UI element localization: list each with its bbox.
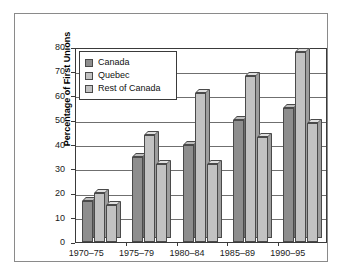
bar-front-face xyxy=(106,205,117,242)
y-axis-tick-label: 30 xyxy=(55,165,65,174)
bar-front-face xyxy=(207,164,218,242)
bar-front-face xyxy=(233,120,244,242)
y-axis-tick-label: 50 xyxy=(55,116,65,125)
x-axis-tick-mark xyxy=(227,242,228,246)
legend-item: Rest of Canada xyxy=(85,82,171,95)
bar-front-face xyxy=(144,135,155,242)
y-axis-tick-label: 20 xyxy=(55,189,65,198)
bar-front-face xyxy=(245,76,256,242)
legend-swatch-icon xyxy=(85,59,93,67)
bar-side-face xyxy=(218,160,222,238)
x-axis-tick-mark xyxy=(278,242,279,246)
bar xyxy=(94,193,105,242)
y-axis-tick-label: 70 xyxy=(55,67,65,76)
x-axis-tick-label: 1985–89 xyxy=(212,248,262,258)
bar xyxy=(82,201,93,242)
bar-front-face xyxy=(257,137,268,242)
legend-item-label: Rest of Canada xyxy=(98,84,161,93)
x-axis-tick-mark xyxy=(177,242,178,246)
bar xyxy=(245,76,256,242)
legend-item: Quebec xyxy=(85,69,171,82)
bar xyxy=(307,123,318,242)
bar-side-face xyxy=(117,201,121,238)
bar xyxy=(195,93,206,242)
legend-item-label: Canada xyxy=(98,58,130,67)
bar-front-face xyxy=(82,201,93,242)
y-axis-tick-label: 0 xyxy=(60,238,65,247)
bar xyxy=(144,135,155,242)
bar-side-face xyxy=(268,133,272,238)
bar-front-face xyxy=(195,93,206,242)
bar xyxy=(233,120,244,242)
bar-front-face xyxy=(156,164,167,242)
bar-front-face xyxy=(307,123,318,242)
y-axis-tick-label: 60 xyxy=(55,92,65,101)
bar-front-face xyxy=(132,157,143,242)
chart-figure: Percentage of First Unions 0102030405060… xyxy=(0,0,341,275)
y-axis-tick-label: 40 xyxy=(55,141,65,150)
bar xyxy=(156,164,167,242)
x-axis-tick-label: 1980–84 xyxy=(162,248,212,258)
x-axis-tick-mark xyxy=(126,242,127,246)
chart-legend: CanadaQuebecRest of Canada xyxy=(79,51,177,100)
bar xyxy=(106,205,117,242)
bar-front-face xyxy=(94,193,105,242)
x-axis-tick-label: 1970–75 xyxy=(61,248,111,258)
bar-front-face xyxy=(283,108,294,242)
bar-side-face xyxy=(318,119,322,238)
x-axis-tick-label: 1990–95 xyxy=(263,248,313,258)
bar xyxy=(132,157,143,242)
bar xyxy=(295,52,306,242)
legend-item: Canada xyxy=(85,56,171,69)
y-axis-tick-label: 10 xyxy=(55,214,65,223)
bar xyxy=(183,145,194,243)
legend-swatch-icon xyxy=(85,85,93,93)
y-axis-tick-label: 80 xyxy=(55,43,65,52)
bar-front-face xyxy=(295,52,306,242)
bar-side-face xyxy=(167,160,171,238)
bar xyxy=(207,164,218,242)
legend-swatch-icon xyxy=(85,72,93,80)
x-axis-tick-label: 1975–79 xyxy=(111,248,161,258)
bar xyxy=(283,108,294,242)
figure-frame: Percentage of First Unions 0102030405060… xyxy=(14,13,328,262)
legend-item-label: Quebec xyxy=(98,71,130,80)
bar-front-face xyxy=(183,145,194,243)
bar xyxy=(257,137,268,242)
